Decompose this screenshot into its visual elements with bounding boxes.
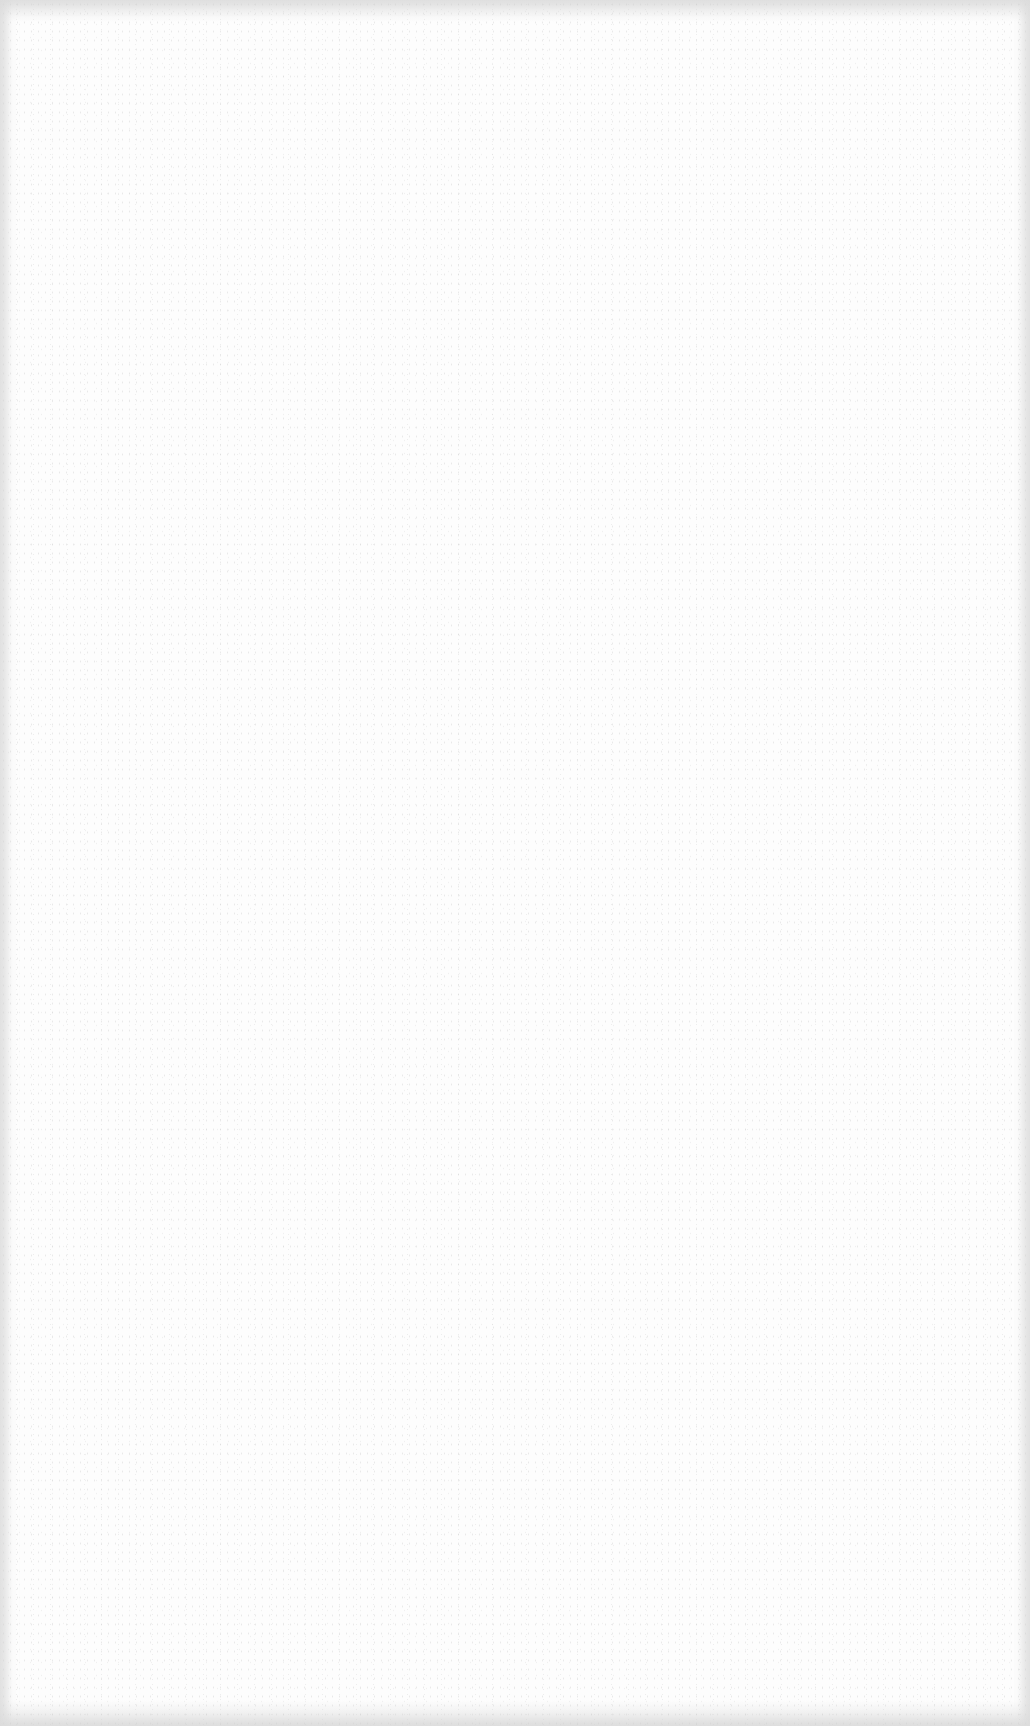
bottom-edge-shading — [0, 1700, 1030, 1726]
blank-page — [0, 0, 1030, 1726]
left-edge-shading — [0, 0, 12, 1726]
right-edge-shading — [1018, 0, 1030, 1726]
top-edge-shading — [0, 0, 1030, 22]
paper-noise-texture — [0, 0, 1030, 1726]
